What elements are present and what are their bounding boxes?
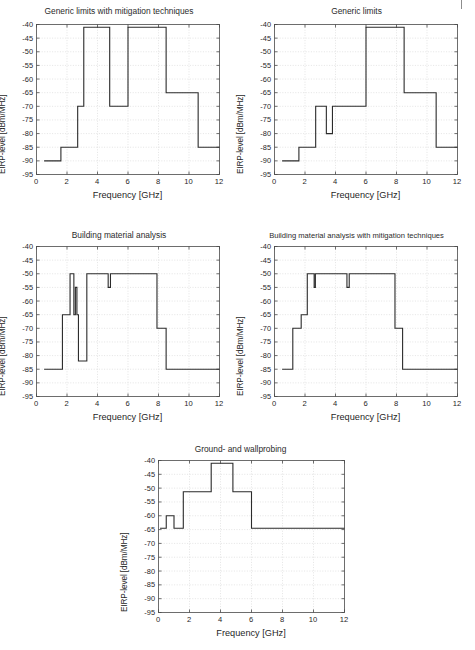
x-axis-tick-label: 2 [302,399,306,408]
axes-canvas [274,246,458,397]
ultrawideband-emission-masks-figure-page: { "page": { "clipped_header_text": "", "… [0,0,475,650]
x-axis-tick-label: 8 [280,615,284,624]
y-axis-tick-label: -75 [248,115,271,124]
x-axis-tick-label: 6 [363,399,367,408]
chart-title: Building material analysis [0,230,238,241]
x-axis-tick-label: 10 [184,177,192,186]
y-axis-tick-label: -60 [248,296,271,305]
x-axis-tick-label: 4 [95,399,99,408]
y-axis-tick-label: -55 [10,60,33,69]
plot-area [158,460,345,613]
x-axis-tick-label: 2 [64,399,68,408]
x-axis-tick-label: 6 [125,177,129,186]
y-axis-tick-label: -50 [10,269,33,278]
x-axis-tick-label: 12 [215,399,223,408]
y-axis-tick-label: -55 [10,282,33,291]
x-axis-label: Frequency [GHz] [36,412,219,422]
x-axis-tick-label: 4 [333,399,337,408]
x-axis-label: Frequency [GHz] [158,628,344,638]
y-axis-tick-label: -65 [248,88,271,97]
y-axis-tick-label: -80 [248,129,271,138]
x-axis-tick-label: 4 [95,177,99,186]
y-axis-tick-label: -65 [248,310,271,319]
x-axis-tick-label: 6 [363,177,367,186]
y-axis-tick-label: -75 [248,337,271,346]
y-axis-tick-label: -50 [248,269,271,278]
y-axis-tick-label: -95 [10,170,33,179]
data-line [282,27,457,161]
y-axis-tick-label: -70 [248,323,271,332]
y-axis-label: EIRP-level [dBm/MHz] [236,317,245,396]
data-line [44,27,219,161]
y-axis-tick-label: -50 [132,483,155,492]
x-axis-tick-label: 12 [340,615,348,624]
y-axis-tick-label: -90 [10,156,33,165]
y-axis-tick-label: -95 [248,170,271,179]
chart-title: Generic limits [238,6,475,17]
y-axis-tick-label: -55 [248,282,271,291]
y-axis-tick-label: -80 [248,351,271,360]
chart-ground-and-wallprobing: Ground- and wallprobing -40-45-50-55-60-… [118,444,363,650]
x-axis-tick-label: 0 [34,399,38,408]
x-axis-tick-label: 8 [156,177,160,186]
x-axis-tick-label: 0 [34,177,38,186]
chart-generic-limits: Generic limits -40-45-50-55-60-65-70-75-… [238,6,475,220]
y-axis-tick-label: -90 [10,378,33,387]
plot-area [36,24,220,175]
chart-title: Ground- and wallprobing [118,444,363,455]
x-axis-label: Frequency [GHz] [274,412,457,422]
y-axis-tick-label: -65 [10,88,33,97]
axes-canvas [36,24,220,175]
axes-canvas [36,246,220,397]
x-axis-tick-label: 12 [453,177,461,186]
x-axis-tick-label: 2 [302,177,306,186]
y-axis-tick-label: -45 [248,255,271,264]
x-axis-tick-label: 2 [64,177,68,186]
y-axis-tick-label: -70 [248,101,271,110]
y-axis-tick-label: -85 [10,364,33,373]
axes-canvas [274,24,458,175]
y-axis-tick-label: -40 [248,20,271,29]
x-axis-tick-label: 10 [422,399,430,408]
data-line [160,463,344,528]
y-axis-tick-label: -90 [248,378,271,387]
y-axis-tick-label: -75 [10,115,33,124]
clipped-page-header [150,0,470,3]
y-axis-tick-label: -80 [132,566,155,575]
x-axis-tick-label: 0 [272,399,276,408]
y-axis-tick-label: -40 [10,242,33,251]
chart-building-material-analysis-with-mitigation-techniques: Building material analysis with mitigati… [238,230,475,442]
y-axis-tick-label: -80 [10,351,33,360]
y-axis-tick-label: -45 [248,33,271,42]
x-axis-tick-label: 0 [272,177,276,186]
y-axis-label: EIRP-level [dBm/MHz] [0,95,7,174]
chart-title: Building material analysis with mitigati… [238,230,475,241]
y-axis-tick-label: -55 [248,60,271,69]
x-axis-tick-label: 10 [309,615,317,624]
x-axis-tick-label: 8 [394,177,398,186]
x-axis-tick-label: 6 [125,399,129,408]
x-axis-tick-label: 12 [453,399,461,408]
data-line [282,274,457,369]
y-axis-tick-label: -55 [132,497,155,506]
data-line [44,274,219,369]
axes-canvas [158,460,345,613]
y-axis-tick-label: -75 [10,337,33,346]
x-axis-tick-label: 2 [187,615,191,624]
y-axis-tick-label: -45 [132,469,155,478]
plot-area [36,246,220,397]
y-axis-tick-label: -65 [132,525,155,534]
y-axis-tick-label: -70 [10,101,33,110]
y-axis-label: EIRP-level [dBm/MHz] [0,317,7,396]
y-axis-tick-label: -70 [132,538,155,547]
chart-building-material-analysis: Building material analysis -40-45-50-55-… [0,230,238,442]
x-axis-tick-label: 10 [422,177,430,186]
y-axis-tick-label: -60 [132,511,155,520]
y-axis-label: EIRP-level [dBm/MHz] [120,533,129,612]
y-axis-tick-label: -40 [248,242,271,251]
y-axis-tick-label: -65 [10,310,33,319]
y-axis-tick-label: -45 [10,255,33,264]
chart-title: Generic limits with mitigation technique… [0,6,238,17]
y-axis-tick-label: -40 [132,456,155,465]
x-axis-tick-label: 0 [156,615,160,624]
